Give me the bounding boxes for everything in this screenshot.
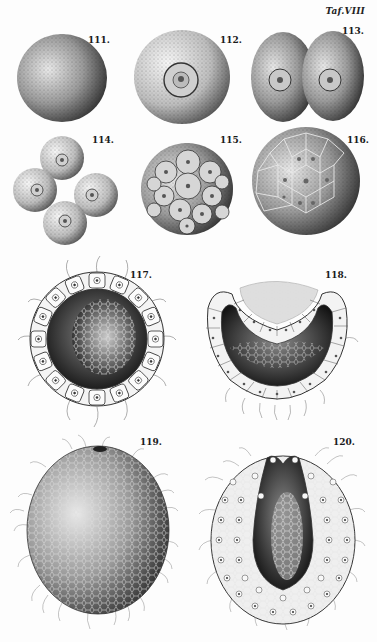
figure-111-egg [15,33,110,123]
figure-114-four-cell [10,133,120,248]
figure-115-morula [140,142,235,237]
figure-112-nucleated-egg [133,30,231,125]
figure-113-two-cell [250,30,365,123]
figure-120-gastrula-section [195,440,370,635]
figure-117-blastula-section [20,262,175,427]
plate-title: Taf.VIII [325,6,365,16]
figure-116-blastula [250,125,362,237]
figure-119-ciliated-gastrula [12,435,182,635]
figure-118-invagination [200,278,355,418]
lithograph-plate: Taf.VIII 111. 112. 113. 114. 115. 116. 1… [0,0,377,642]
